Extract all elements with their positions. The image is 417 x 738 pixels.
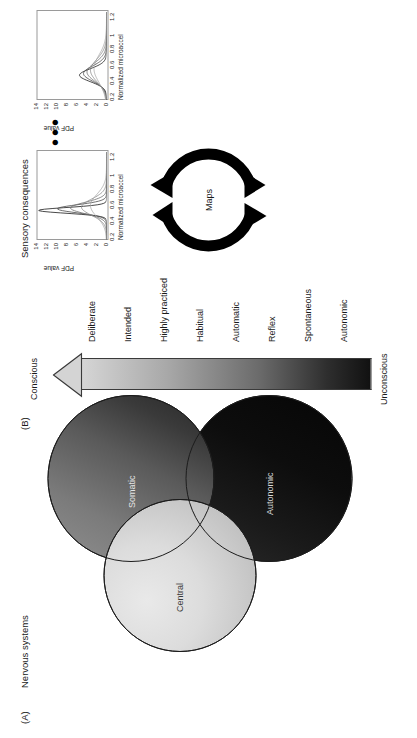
panel-b-letter: (B) [18,417,29,430]
panel-a-title: Nervous systems [18,615,29,688]
pdf-plot-1-curves [36,152,106,240]
xtick: 0.6 [108,61,114,69]
arrow-head-icon [52,352,82,398]
ytick: 6 [72,243,78,256]
pdf-plot-1-ylabel: PDF value [43,265,73,272]
panel-b-spectrum: (B) Conscious Unconscious Voluntary Invo… [0,268,417,438]
panel-a-letter: (A) [18,711,29,724]
consciousness-gradient-arrow [52,352,370,398]
pdf-plot-1[interactable]: 02468101214 0.20.40.60.811.2 PDF value N… [36,152,124,256]
panel-a-nervous-systems: (A) Nervous systems Central Somatic Auto… [0,438,417,738]
ytick: 8 [62,243,68,256]
ytick: 6 [72,103,78,116]
spectrum-label-intended: Intended [122,307,132,342]
maps-cycle-diagram: Maps [148,141,268,259]
venn-circle-central[interactable] [103,499,256,652]
xtick: 0.4 [108,77,114,85]
xtick: 0.8 [108,185,114,193]
ytick: 2 [92,103,98,116]
xtick: 0.2 [108,93,114,101]
panel-c-title: Sensory consequences [18,159,29,258]
ytick: 10 [52,243,58,256]
xtick: 0.2 [108,233,114,241]
ytick: 14 [32,243,38,256]
venn-label-somatic: Somatic [126,475,136,508]
xtick: 0.8 [108,45,114,53]
spectrum-label-spontaneous: Spontaneous [302,289,312,342]
arrow-shaft [80,358,371,390]
pdf-plot-2[interactable]: 02468101214 0.20.40.60.811.2 PDF value N… [36,12,124,116]
figure-stage: (A) Nervous systems Central Somatic Auto… [0,0,417,738]
venn-label-autonomic: Autonomic [264,472,274,515]
arrow-label-conscious: Conscious [28,358,38,400]
xtick: 1.2 [108,13,114,21]
panel-c-sensory-consequences: Sensory consequences Maps ••• 0246810121… [0,0,417,268]
ytick: 12 [42,103,48,116]
xtick: 0.4 [108,217,114,225]
ytick: 2 [92,243,98,256]
spectrum-label-automatic: Automatic [230,302,240,342]
ytick: 4 [82,103,88,116]
xtick: 1 [108,34,114,37]
pdf-plot-2-curves [36,12,106,100]
pdf-plot-2-xlabel: Normalized microaccel [116,34,123,100]
maps-cycle-label: Maps [203,141,213,259]
figure-canvas: (A) Nervous systems Central Somatic Auto… [0,0,417,738]
xtick: 0.6 [108,201,114,209]
arrow-label-unconscious: Unconscious [378,353,388,405]
spectrum-label-autonomic: Autonomic [338,299,348,342]
pdf-plot-1-xlabel: Normalized microaccel [116,174,123,240]
ytick: 8 [62,103,68,116]
spectrum-label-highly-practiced: Highly practiced [158,278,168,342]
pdf-plot-2-ylabel: PDF value [43,125,73,132]
spectrum-label-habitual: Habitual [194,309,204,342]
xtick: 1.2 [108,153,114,161]
ytick: 10 [52,103,58,116]
venn-label-central: Central [174,583,184,612]
ytick: 0 [102,243,108,256]
ytick: 4 [82,243,88,256]
xtick: 1 [108,174,114,177]
ytick: 12 [42,243,48,256]
spectrum-label-deliberate: Deliberate [86,301,96,342]
ytick: 0 [102,103,108,116]
ytick: 14 [32,103,38,116]
spectrum-label-reflex: Reflex [266,316,276,342]
